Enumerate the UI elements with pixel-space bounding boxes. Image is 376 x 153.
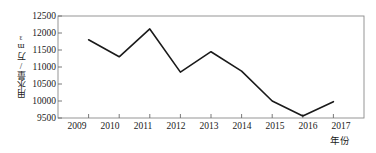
line-chart: 用水量/万m³ 12500 12000 11500 11000 10500 10… [0, 0, 376, 153]
plot-area [0, 0, 376, 153]
y-axis-ticks [58, 16, 62, 118]
plot-frame [58, 16, 364, 118]
data-series-line [89, 29, 334, 116]
x-axis-ticks [89, 114, 334, 118]
